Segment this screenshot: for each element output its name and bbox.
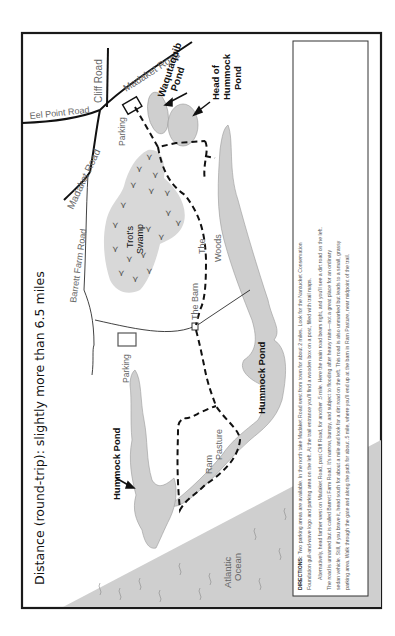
svg-text:⋎: ⋎ — [132, 274, 139, 284]
directions-line-0: Two parking areas are available. In the … — [297, 242, 303, 554]
svg-text:Ocean: Ocean — [232, 553, 243, 581]
svg-text:Swamp: Swamp — [135, 224, 145, 254]
svg-text:⋎: ⋎ — [120, 200, 127, 210]
the-barn-label: The Barn — [190, 283, 200, 320]
svg-text:⋎: ⋎ — [164, 188, 171, 198]
svg-text:⋎: ⋎ — [118, 268, 125, 278]
svg-text:⋎: ⋎ — [165, 208, 172, 218]
svg-text:⋎: ⋎ — [148, 186, 155, 196]
svg-text:Pond: Pond — [232, 66, 243, 90]
svg-text:⋎: ⋎ — [152, 170, 159, 180]
trail-map: ⋎⋎⋎ ⋎⋎⋎ ⋎⋎⋎ ⋎⋎⋎ ⋎⋎⋎ ⋎⋎⋎ Madaket Road Cli… — [0, 0, 395, 636]
svg-text:⋎: ⋎ — [136, 164, 143, 174]
svg-text:Woods: Woods — [213, 234, 223, 262]
svg-text:⋎: ⋎ — [146, 152, 153, 162]
parking-mid-label: Parking — [121, 354, 131, 383]
svg-text:⋎: ⋎ — [130, 180, 137, 190]
directions-line-2: Alternatively, head farther west on Mada… — [317, 227, 323, 580]
svg-text:⋎: ⋎ — [112, 244, 119, 254]
svg-text:⋎: ⋎ — [145, 224, 152, 234]
svg-text:Trot's: Trot's — [125, 226, 135, 248]
svg-text:DIRECTIONS:Two parking areas a: DIRECTIONS:Two parking areas are availab… — [297, 242, 303, 590]
svg-text:The: The — [197, 238, 207, 254]
head-of-hummock-pond — [168, 104, 198, 146]
svg-text:⋎: ⋎ — [175, 218, 182, 228]
svg-text:Head of: Head of — [210, 64, 221, 100]
parking-box-mid — [118, 333, 136, 346]
directions-line-3: The road is unnamed but is called Barret… — [326, 250, 332, 590]
directions-line-5: parking area. Walk through the gate and … — [344, 254, 350, 590]
svg-text:⋎: ⋎ — [112, 220, 119, 230]
directions-heading: DIRECTIONS: — [297, 556, 303, 590]
cliff-road-line — [107, 48, 108, 107]
svg-text:⋎: ⋎ — [158, 232, 165, 242]
svg-text:⋎: ⋎ — [146, 266, 153, 276]
svg-text:Pasture: Pasture — [214, 429, 224, 460]
hummock-pond-east-label: Hummock Pond — [256, 341, 267, 414]
hummock-pond-west-label: Hummock Pond — [111, 427, 122, 500]
cliff-road-label: Cliff Road — [93, 59, 104, 103]
parking-top-label: Parking — [117, 117, 127, 146]
svg-text:⋎: ⋎ — [126, 254, 133, 264]
directions-line-4: sedan vehicle. Still, if you brave it, h… — [335, 240, 341, 590]
svg-text:Ram: Ram — [204, 455, 214, 474]
svg-text:Hummock: Hummock — [221, 53, 232, 100]
directions-line-1: Foundation gull-and-wave logo and parkin… — [306, 278, 312, 590]
distance-title: Distance (round-trip): slightly more tha… — [32, 271, 47, 585]
